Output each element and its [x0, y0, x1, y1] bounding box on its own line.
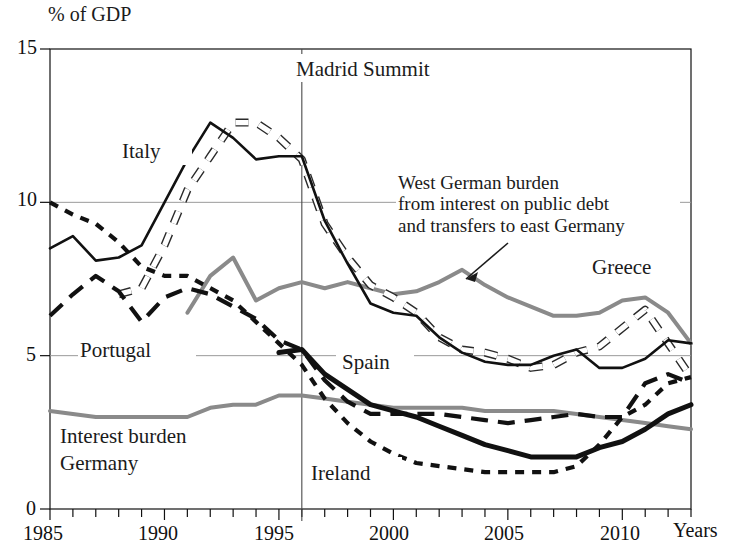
series-label-germany-line2: Germany [60, 451, 138, 476]
west-german-burden-annotation: West German burden from interest on publ… [398, 172, 625, 236]
series-line-greece [119, 123, 691, 378]
annotation-line-2: from interest on public debt [398, 193, 625, 214]
series-label-italy: Italy [122, 139, 160, 164]
annotation-line-1: West German burden [398, 172, 625, 193]
series-label-germany-line1: Interest burden [60, 424, 187, 449]
madrid-summit-label: Madrid Summit [296, 57, 430, 82]
annotation-line-3: and transfers to east Germany [398, 215, 625, 236]
chart-figure: % of GDP 15 10 5 0 1985 1990 1995 2000 2… [0, 0, 739, 559]
series-label-spain: Spain [342, 350, 390, 375]
series-label-ireland: Ireland [311, 461, 370, 486]
series-label-greece: Greece [592, 255, 651, 280]
annotation-arrow-shaft [466, 243, 508, 279]
series-label-portugal: Portugal [80, 338, 151, 363]
